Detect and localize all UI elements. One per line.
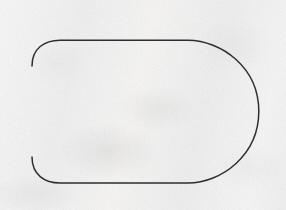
figure-canvas bbox=[0, 0, 286, 210]
geometry-figure bbox=[0, 0, 286, 210]
